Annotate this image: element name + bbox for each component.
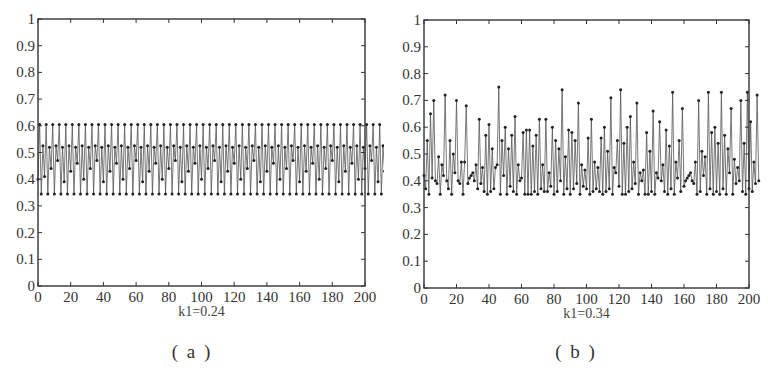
x-tick-label: 100	[190, 289, 213, 305]
y-tick-label: 0.3	[16, 198, 35, 214]
y-tick-label: 0	[28, 278, 36, 294]
x-tick-label: 200	[354, 289, 377, 305]
chart-panel-b: 02040608010012014016018020000.10.20.30.4…	[384, 0, 768, 383]
x-axis-label: k1=0.34	[563, 306, 609, 321]
x-tick-label: 0	[420, 291, 428, 307]
x-tick-label: 0	[34, 289, 42, 305]
x-axis-label: k1=0.24	[178, 304, 224, 319]
caption-a: ( a )	[0, 341, 384, 363]
y-tick-label: 0.6	[16, 118, 35, 134]
plot-frame	[424, 20, 749, 288]
caption-b: ( b )	[384, 341, 768, 363]
x-tick-label: 60	[129, 289, 144, 305]
x-tick-label: 160	[673, 291, 696, 307]
x-tick-label: 20	[63, 289, 78, 305]
y-tick-label: 0.8	[402, 66, 421, 82]
y-tick-label: 1	[28, 11, 36, 27]
x-tick-label: 180	[705, 291, 728, 307]
y-tick-label: 0.6	[402, 119, 421, 135]
data-series-line	[424, 87, 759, 194]
y-tick-label: 0.5	[16, 145, 35, 161]
y-tick-label: 0.3	[402, 200, 421, 216]
x-tick-label: 200	[738, 291, 761, 307]
y-tick-label: 0.9	[402, 39, 421, 55]
x-tick-label: 20	[449, 291, 464, 307]
x-tick-label: 60	[514, 291, 529, 307]
x-tick-label: 40	[482, 291, 497, 307]
x-tick-label: 40	[96, 289, 111, 305]
y-tick-label: 0.1	[402, 253, 421, 269]
y-tick-label: 0.5	[402, 146, 421, 162]
y-tick-label: 0.4	[16, 171, 35, 187]
plot-frame	[38, 19, 365, 286]
y-tick-label: 0.7	[402, 92, 421, 108]
y-tick-label: 0.9	[16, 38, 35, 54]
y-tick-label: 0.1	[16, 251, 35, 267]
line-chart-a: 02040608010012014016018020000.10.20.30.4…	[0, 0, 384, 383]
x-tick-label: 80	[547, 291, 562, 307]
chart-panel-a: 02040608010012014016018020000.10.20.30.4…	[0, 0, 384, 383]
y-tick-label: 0.2	[16, 225, 35, 241]
x-tick-label: 140	[256, 289, 279, 305]
x-tick-label: 180	[321, 289, 344, 305]
y-tick-label: 0.4	[402, 173, 421, 189]
y-tick-label: 0.8	[16, 64, 35, 80]
y-tick-label: 0.7	[16, 91, 35, 107]
x-tick-label: 140	[640, 291, 663, 307]
y-tick-label: 1	[414, 12, 422, 28]
y-tick-label: 0	[414, 280, 422, 296]
x-tick-label: 120	[608, 291, 631, 307]
line-chart-b: 02040608010012014016018020000.10.20.30.4…	[384, 0, 768, 383]
x-tick-label: 160	[288, 289, 311, 305]
y-tick-label: 0.2	[402, 226, 421, 242]
x-tick-label: 120	[223, 289, 246, 305]
x-tick-label: 80	[161, 289, 176, 305]
x-tick-label: 100	[575, 291, 598, 307]
